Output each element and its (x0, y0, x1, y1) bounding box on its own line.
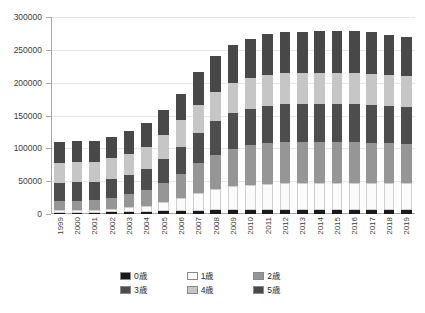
bar-segment[interactable] (349, 183, 360, 210)
bar-segment[interactable] (262, 184, 273, 210)
bar-column[interactable] (124, 131, 135, 214)
bar-segment[interactable] (314, 142, 325, 183)
bar-segment[interactable] (245, 185, 256, 211)
bar-segment[interactable] (193, 105, 204, 133)
bar-segment[interactable] (349, 210, 360, 214)
bar-segment[interactable] (280, 210, 291, 214)
bar-segment[interactable] (228, 45, 239, 83)
bar-segment[interactable] (124, 212, 135, 214)
bar-segment[interactable] (176, 120, 187, 146)
bar-column[interactable] (384, 35, 395, 214)
bar-segment[interactable] (89, 141, 100, 162)
bar-segment[interactable] (332, 31, 343, 73)
bar-segment[interactable] (89, 162, 100, 182)
bar-segment[interactable] (89, 213, 100, 214)
bar-column[interactable] (280, 32, 291, 214)
bar-column[interactable] (176, 94, 187, 214)
bar-segment[interactable] (262, 106, 273, 143)
bar-segment[interactable] (262, 75, 273, 106)
bar-segment[interactable] (176, 211, 187, 214)
bar-segment[interactable] (54, 201, 65, 210)
bar-segment[interactable] (210, 92, 221, 122)
bar-segment[interactable] (228, 186, 239, 210)
bar-segment[interactable] (228, 83, 239, 113)
bar-segment[interactable] (314, 183, 325, 210)
bar-segment[interactable] (280, 73, 291, 104)
bar-segment[interactable] (54, 142, 65, 163)
bar-segment[interactable] (176, 174, 187, 198)
bar-segment[interactable] (54, 183, 65, 201)
bar-segment[interactable] (141, 123, 152, 147)
bar-segment[interactable] (228, 210, 239, 214)
bar-segment[interactable] (297, 104, 308, 142)
bar-segment[interactable] (106, 212, 117, 214)
bar-segment[interactable] (401, 37, 412, 76)
bar-segment[interactable] (401, 183, 412, 210)
bar-segment[interactable] (349, 31, 360, 73)
bar-column[interactable] (158, 110, 169, 214)
bar-segment[interactable] (384, 143, 395, 183)
bar-segment[interactable] (349, 104, 360, 142)
bar-segment[interactable] (158, 202, 169, 211)
bar-segment[interactable] (72, 141, 83, 162)
bar-segment[interactable] (332, 183, 343, 210)
bar-segment[interactable] (297, 142, 308, 183)
bar-segment[interactable] (158, 135, 169, 159)
bar-segment[interactable] (280, 183, 291, 210)
bar-segment[interactable] (245, 145, 256, 184)
bar-segment[interactable] (193, 163, 204, 193)
bar-segment[interactable] (384, 183, 395, 210)
bar-segment[interactable] (401, 210, 412, 214)
bar-segment[interactable] (384, 210, 395, 214)
bar-segment[interactable] (314, 210, 325, 214)
bar-segment[interactable] (366, 210, 377, 214)
legend-item[interactable]: 0歳 (120, 269, 187, 283)
bar-segment[interactable] (176, 94, 187, 121)
bar-column[interactable] (193, 72, 204, 214)
bar-segment[interactable] (158, 183, 169, 203)
bar-segment[interactable] (228, 149, 239, 186)
bar-column[interactable] (297, 32, 308, 214)
bar-segment[interactable] (280, 32, 291, 73)
bar-segment[interactable] (366, 74, 377, 105)
bar-column[interactable] (54, 142, 65, 214)
bar-segment[interactable] (332, 210, 343, 214)
bar-column[interactable] (332, 31, 343, 214)
bar-segment[interactable] (349, 142, 360, 183)
legend-item[interactable]: 4歳 (187, 283, 254, 297)
bar-segment[interactable] (297, 183, 308, 210)
bar-segment[interactable] (158, 159, 169, 183)
bar-segment[interactable] (193, 211, 204, 214)
bar-segment[interactable] (314, 31, 325, 73)
bar-column[interactable] (228, 45, 239, 214)
bar-segment[interactable] (72, 201, 83, 211)
bar-segment[interactable] (280, 142, 291, 183)
bar-segment[interactable] (106, 137, 117, 159)
bar-segment[interactable] (193, 193, 204, 211)
bar-segment[interactable] (384, 106, 395, 143)
bar-segment[interactable] (297, 210, 308, 214)
bar-segment[interactable] (176, 198, 187, 211)
bar-segment[interactable] (210, 155, 221, 189)
bar-segment[interactable] (366, 143, 377, 184)
bar-segment[interactable] (262, 143, 273, 184)
bar-segment[interactable] (158, 211, 169, 214)
bar-segment[interactable] (384, 35, 395, 76)
bar-segment[interactable] (210, 56, 221, 91)
bar-column[interactable] (245, 39, 256, 214)
legend-item[interactable]: 2歳 (253, 269, 320, 283)
bar-segment[interactable] (124, 175, 135, 195)
bar-column[interactable] (314, 31, 325, 214)
bar-segment[interactable] (366, 183, 377, 210)
bar-segment[interactable] (158, 110, 169, 135)
bar-segment[interactable] (366, 32, 377, 74)
bar-segment[interactable] (193, 133, 204, 163)
bar-segment[interactable] (297, 73, 308, 104)
bar-segment[interactable] (401, 107, 412, 144)
bar-segment[interactable] (314, 104, 325, 142)
legend-item[interactable]: 1歳 (187, 269, 254, 283)
bar-segment[interactable] (384, 75, 395, 106)
bar-segment[interactable] (245, 78, 256, 109)
bar-segment[interactable] (245, 210, 256, 214)
bar-segment[interactable] (124, 194, 135, 207)
